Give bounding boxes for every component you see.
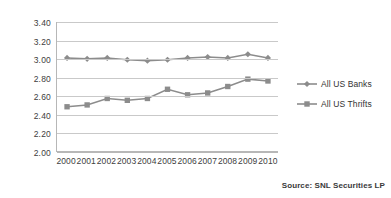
data-point-marker (245, 51, 251, 57)
gridline: 2.20 (57, 133, 278, 134)
y-axis-tick-label: 2.60 (34, 92, 51, 102)
gridline: 2.80 (57, 78, 278, 79)
gridline: 2.60 (57, 96, 278, 97)
data-point-marker (225, 84, 230, 89)
series-line (67, 79, 268, 107)
y-axis-tick-label: 2.80 (34, 74, 51, 84)
legend-label: All US Banks (321, 79, 372, 89)
x-axis-tick-label: 2002 (97, 156, 116, 166)
data-point-marker (165, 87, 170, 92)
chart-legend: All US BanksAll US Thrifts (296, 74, 391, 114)
chart-container: 3.403.203.002.802.602.402.202.00 2000200… (0, 0, 391, 198)
legend-label: All US Thrifts (321, 99, 372, 109)
data-point-marker (84, 102, 89, 107)
square-marker-icon (296, 98, 318, 110)
y-axis-tick-label: 2.40 (34, 111, 51, 121)
data-point-marker (205, 90, 210, 95)
plot-area: 3.403.203.002.802.602.402.202.00 (56, 22, 278, 152)
x-axis-tick-label: 2003 (117, 156, 136, 166)
x-axis-tick-label: 2005 (157, 156, 176, 166)
x-axis-tick-label: 2009 (238, 156, 257, 166)
y-axis-tick-label: 3.40 (34, 18, 51, 28)
x-axis-tick-label: 2007 (198, 156, 217, 166)
data-point-marker (304, 81, 310, 87)
gridline: 2.40 (57, 115, 278, 116)
data-point-marker (265, 78, 270, 83)
legend-item-all-us-thrifts[interactable]: All US Thrifts (296, 94, 391, 114)
source-note: Source: SNL Securities LP (282, 181, 385, 190)
gridline: 3.20 (57, 41, 278, 42)
y-axis-tick-label: 2.00 (34, 148, 51, 158)
x-axis-tick-label: 2008 (218, 156, 237, 166)
x-axis-tick-label: 2006 (178, 156, 197, 166)
x-axis-tick-label: 2000 (56, 156, 75, 166)
x-axis: 2000200120022003200420052006200720082009… (56, 156, 278, 172)
x-axis-tick-label: 2004 (137, 156, 156, 166)
gridline: 3.40 (57, 22, 278, 23)
y-axis-tick-label: 2.20 (34, 129, 51, 139)
series-all-us-thrifts (64, 76, 270, 109)
data-point-marker (304, 101, 309, 106)
y-axis-tick-label: 3.20 (34, 37, 51, 47)
legend-item-all-us-banks[interactable]: All US Banks (296, 74, 391, 94)
y-axis-tick-label: 3.00 (34, 55, 51, 65)
data-point-marker (125, 98, 130, 103)
data-point-marker (64, 104, 69, 109)
gridline: 3.00 (57, 59, 278, 60)
gridline: 2.00 (57, 152, 278, 153)
x-axis-tick-label: 2001 (77, 156, 96, 166)
diamond-marker-icon (296, 78, 318, 90)
series-all-us-banks (64, 51, 271, 64)
x-axis-tick-label: 2010 (258, 156, 277, 166)
